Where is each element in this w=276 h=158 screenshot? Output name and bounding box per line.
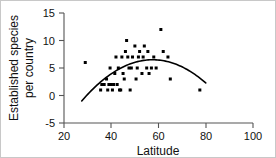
x-tick-label-20: 20	[58, 130, 70, 142]
data-point	[84, 61, 87, 64]
x-axis-title: Latitude	[137, 144, 180, 158]
x-axis: 20 40 60 80 100	[58, 123, 262, 142]
data-point	[105, 78, 108, 81]
data-point	[169, 78, 172, 81]
data-point	[120, 56, 123, 59]
data-point	[140, 72, 143, 75]
x-tick-label-100: 100	[244, 130, 262, 142]
data-point	[142, 56, 145, 59]
data-point	[116, 83, 119, 86]
data-point	[143, 45, 146, 48]
data-point	[150, 67, 153, 70]
data-point	[112, 83, 115, 86]
data-point	[146, 50, 149, 53]
data-point	[111, 89, 114, 92]
data-point	[129, 89, 132, 92]
data-point	[130, 67, 133, 70]
y-tick-label-10: 10	[43, 35, 55, 47]
data-point	[148, 72, 151, 75]
scatter-plot: 15 10 5 0 -5 Established species per cou…	[1, 1, 276, 158]
data-point	[106, 89, 109, 92]
data-point	[99, 89, 102, 92]
data-point	[117, 67, 120, 70]
data-point	[124, 50, 127, 53]
x-tick-label-60: 60	[152, 130, 164, 142]
data-point	[133, 45, 136, 48]
y-tick-label--5: -5	[45, 117, 55, 129]
data-point	[114, 56, 117, 59]
y-axis-title: Established species per country	[7, 15, 36, 121]
data-point	[152, 56, 155, 59]
data-point	[125, 39, 128, 42]
data-point	[159, 28, 162, 31]
x-tick-label-80: 80	[200, 130, 212, 142]
y-axis-title-line2: per country	[22, 38, 36, 98]
data-point	[145, 67, 148, 70]
data-point	[123, 78, 126, 81]
data-point	[126, 56, 129, 59]
data-point	[135, 78, 138, 81]
data-point	[122, 72, 125, 75]
quadratic-fit-curve	[82, 60, 206, 101]
y-tick-label-0: 0	[49, 90, 55, 102]
data-point	[198, 89, 201, 92]
data-point	[138, 50, 141, 53]
data-point	[137, 56, 140, 59]
data-point	[131, 56, 134, 59]
data-point	[136, 67, 139, 70]
x-tick-label-40: 40	[105, 130, 117, 142]
data-point	[162, 50, 165, 53]
data-point	[113, 72, 116, 75]
y-tick-label-5: 5	[49, 62, 55, 74]
data-point	[155, 67, 158, 70]
data-point	[109, 67, 112, 70]
y-axis-title-line1: Established species	[7, 15, 21, 121]
y-tick-label-15: 15	[43, 7, 55, 19]
data-point	[166, 56, 169, 59]
data-point	[119, 89, 122, 92]
y-axis: 15 10 5 0 -5	[43, 7, 64, 129]
data-point	[103, 83, 106, 86]
chart-figure: 15 10 5 0 -5 Established species per cou…	[0, 0, 276, 158]
